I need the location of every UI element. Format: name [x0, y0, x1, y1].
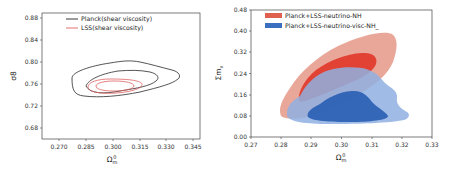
ytick-label: 0.88 — [25, 14, 39, 21]
right-x-axis-label: Ωm0 — [336, 152, 347, 163]
right-y-tick-labels: 0.48 0.40 0.32 0.24 0.16 0.08 0.00 — [234, 6, 248, 140]
right-y-axis-label: Σmν — [214, 65, 224, 80]
ytick-label: 0.80 — [25, 58, 39, 65]
legend-swatch-visc — [265, 23, 282, 28]
ytick-label: 0.72 — [25, 102, 39, 109]
planck-shear-contours — [72, 61, 180, 97]
lss-shear-contours — [88, 79, 142, 93]
left-panel: 0.88 0.84 0.80 0.76 0.72 0.68 0.270 0.28… — [9, 13, 202, 165]
xtick-label: 0.345 — [184, 143, 201, 150]
ytick-label: 0.00 — [234, 133, 248, 140]
ytick-label: 0.68 — [25, 124, 39, 131]
xtick-label: 0.29 — [304, 141, 318, 148]
left-y-axis-label: σ8 — [9, 71, 18, 81]
right-panel: 0.48 0.40 0.32 0.24 0.16 0.08 0.00 0.27 … — [214, 6, 439, 163]
planck-2sigma-contour — [72, 61, 180, 97]
svg-text:Ωm0: Ωm0 — [107, 154, 118, 165]
xtick-label: 0.28 — [274, 141, 288, 148]
legend-label-nh: Planck+LSS-neutrino-NH — [285, 12, 362, 19]
xtick-label: 0.270 — [50, 143, 67, 150]
ytick-label: 0.84 — [25, 36, 39, 43]
left-axes-frame — [42, 13, 200, 139]
right-legend: Planck+LSS-neutrino-NH Planck+LSS-neutri… — [265, 12, 380, 30]
figure: 0.88 0.84 0.80 0.76 0.72 0.68 0.270 0.28… — [0, 0, 449, 172]
xtick-label: 0.285 — [77, 143, 94, 150]
legend-swatch-nh — [265, 13, 282, 18]
right-x-tick-labels: 0.27 0.28 0.29 0.30 0.31 0.32 0.33 — [244, 141, 439, 148]
lss-1sigma-contour — [96, 81, 134, 91]
svg-text:σ8: σ8 — [9, 71, 18, 81]
xtick-label: 0.300 — [104, 143, 121, 150]
svg-text:Σmν: Σmν — [214, 65, 224, 80]
svg-text:Ωm0: Ωm0 — [336, 152, 347, 163]
xtick-label: 0.31 — [365, 141, 379, 148]
legend-label-lss: LSS(shear viscosity) — [81, 24, 143, 32]
xtick-label: 0.32 — [395, 141, 409, 148]
xtick-label: 0.30 — [335, 141, 349, 148]
ytick-label: 0.24 — [234, 70, 248, 77]
left-y-tick-labels: 0.88 0.84 0.80 0.76 0.72 0.68 — [25, 14, 39, 131]
xtick-label: 0.315 — [131, 143, 148, 150]
ytick-label: 0.40 — [234, 27, 248, 34]
left-x-axis-label: Ωm0 — [107, 154, 118, 165]
xtick-label: 0.27 — [244, 141, 258, 148]
ytick-label: 0.32 — [234, 48, 248, 55]
ytick-label: 0.16 — [234, 91, 248, 98]
legend-label-planck: Planck(shear viscosity) — [81, 15, 152, 23]
xtick-label: 0.330 — [157, 143, 174, 150]
ytick-label: 0.48 — [234, 6, 248, 13]
ytick-label: 0.76 — [25, 80, 39, 87]
legend-label-visc: Planck+LSS-neutrino-visc-NH_ — [285, 22, 380, 30]
xtick-label: 0.33 — [425, 141, 439, 148]
left-x-tick-labels: 0.270 0.285 0.300 0.315 0.330 0.345 — [50, 143, 201, 150]
ytick-label: 0.08 — [234, 112, 248, 119]
left-legend: Planck(shear viscosity) LSS(shear viscos… — [66, 15, 152, 32]
